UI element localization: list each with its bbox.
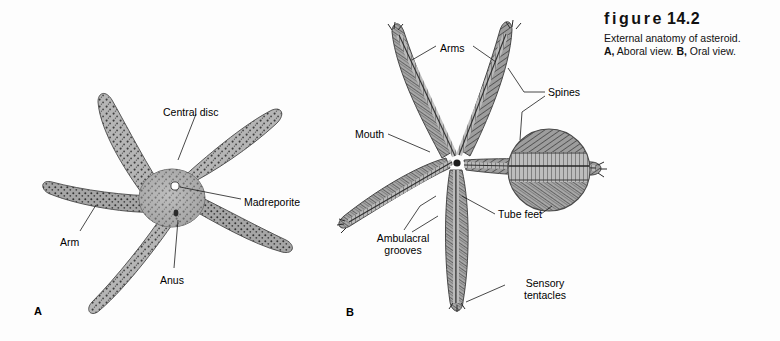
- figure-title-word: figure: [604, 10, 664, 27]
- mouth-marker: [453, 159, 460, 166]
- label-ambulacral-grooves: Ambulacral grooves: [366, 232, 440, 257]
- label-anus: Anus: [160, 274, 184, 286]
- panel-letter-a: A: [34, 305, 42, 317]
- label-central-disc: Central disc: [163, 106, 218, 118]
- figure-root: Central disc Madreporite Arm Anus Arms S…: [0, 0, 780, 341]
- label-sensory-tentacles: Sensory tentacles: [508, 277, 582, 302]
- caption-line-1: External anatomy of asteroid.: [604, 32, 774, 46]
- label-mouth: Mouth: [355, 128, 384, 140]
- figure-number: 14.2: [667, 10, 700, 27]
- label-tube-feet: Tube feet: [498, 208, 542, 220]
- label-arm: Arm: [60, 236, 79, 248]
- caption-line-2: A, Aboral view. B, Oral view.: [604, 45, 774, 59]
- sea-star-oral: [337, 20, 607, 312]
- panel-letter-b: B: [346, 306, 354, 318]
- anus-marker: [174, 210, 179, 217]
- label-arms: Arms: [440, 42, 465, 54]
- label-madreporite: Madreporite: [244, 196, 300, 208]
- figure-title: figure14.2: [604, 10, 774, 28]
- label-spines: Spines: [548, 86, 580, 98]
- madreporite-marker: [171, 182, 179, 190]
- figure-caption: figure14.2 External anatomy of asteroid.…: [604, 10, 774, 59]
- tube-feet-magnified-inset: [508, 129, 590, 211]
